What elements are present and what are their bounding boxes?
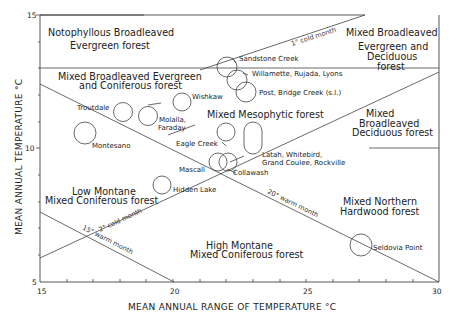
- y-tick-5: 5: [32, 278, 37, 287]
- site-marker-molalla: [139, 107, 158, 126]
- site-label-wishkaw: Wishkaw: [192, 93, 223, 101]
- isoline-label-1-cold: 1° cold month: [290, 26, 337, 48]
- site-label-molalla-line1: Molalla,: [159, 116, 186, 124]
- site-label-latah-line2: Grand Coulee, Rockville: [262, 159, 345, 167]
- isoline-label-2-cold: 2° cold month: [97, 207, 143, 234]
- region-mnh-line2: Hardwood forest: [340, 206, 420, 217]
- x-axis-title: MEAN ANNUAL RANGE OF TEMPERATURE °C: [128, 302, 336, 312]
- x-tick-30: 30: [432, 287, 442, 296]
- x-tick-20: 20: [170, 287, 180, 296]
- site-marker-hidden-lake: [153, 176, 171, 194]
- y-axis-ticks: [36, 15, 40, 255]
- site-marker-troutdale: [114, 103, 133, 122]
- site-label-molalla-line2: Faraday: [158, 124, 186, 132]
- x-tick-25: 25: [303, 287, 313, 296]
- site-label-willamette: Willamette, Rujada, Lyons: [252, 70, 343, 78]
- site-marker-seldovia-point: [350, 234, 372, 256]
- region-mbed-line1: Mixed Broadleaved: [346, 27, 438, 38]
- site-label-latah-line1: Latah, Whitebird,: [262, 151, 322, 159]
- site-label-hidden-lake: Hidden Lake: [173, 186, 216, 194]
- region-mbec-line2: and Coniferous forest: [79, 80, 182, 91]
- x-tick-15: 15: [37, 287, 47, 296]
- site-label-eagle-creek: Eagle Creek: [176, 140, 219, 148]
- site-label-troutdale: Troutdale: [76, 104, 109, 112]
- site-label-collawash: Collawash: [233, 169, 268, 177]
- site-marker-montesano: [74, 122, 96, 144]
- site-label-seldovia-point: Seldovia Point: [373, 244, 423, 252]
- y-tick-15: 15: [27, 11, 37, 20]
- region-mixed-mesophytic: Mixed Mesophytic forest: [207, 109, 324, 120]
- region-mbd-line3: Deciduous forest: [352, 127, 433, 138]
- site-marker-wishkaw: [173, 93, 191, 111]
- region-high-montane-line2: Mixed Coniferous forest: [190, 249, 304, 260]
- site-label-post-bridge-creek: Post, Bridge Creek (s.l.): [259, 89, 341, 97]
- site-marker-latah: [244, 122, 262, 154]
- region-notophyllous-line2: Evergreen forest: [70, 40, 150, 51]
- site-label-montesano: Montesano: [92, 142, 130, 150]
- forest-climate-chart: 15 10 5 15 20 25 30 MEAN ANNUAL RANGE OF…: [0, 0, 459, 321]
- region-notophyllous-line1: Notophyllous Broadleaved: [48, 27, 174, 38]
- site-label-mascall: Mascall: [179, 166, 205, 174]
- site-marker-sandstone-creek: [217, 57, 237, 77]
- region-mbed-line4: forest: [377, 61, 405, 72]
- y-tick-10: 10: [25, 144, 35, 153]
- region-low-montane-line2: Mixed Coniferous forest: [45, 195, 159, 206]
- site-marker-mascall: [209, 153, 227, 171]
- site-label-sandstone-creek: Sandstone Creek: [239, 55, 299, 63]
- site-marker-eagle-creek: [217, 123, 235, 141]
- isoline-label-20-warm: 20° warm month: [266, 188, 320, 220]
- y-axis-title: MEAN ANNUAL TEMPERATURE °C: [14, 79, 24, 235]
